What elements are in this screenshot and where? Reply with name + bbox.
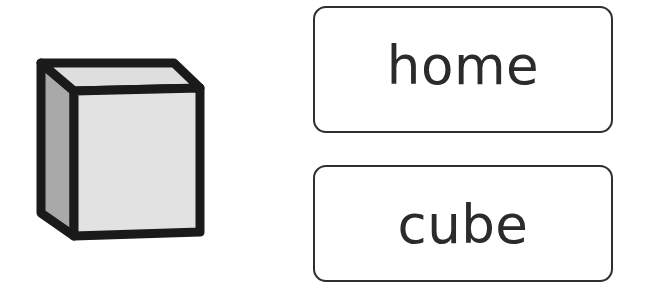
worksheet-canvas: home cube bbox=[0, 0, 653, 291]
word-card-home[interactable]: home bbox=[313, 6, 613, 133]
cube-front-face bbox=[74, 88, 200, 236]
cube-icon bbox=[28, 50, 218, 245]
word-card-home-label: home bbox=[387, 39, 539, 92]
word-card-cube[interactable]: cube bbox=[313, 165, 613, 282]
cube-illustration bbox=[28, 50, 218, 245]
word-card-cube-label: cube bbox=[398, 198, 529, 251]
